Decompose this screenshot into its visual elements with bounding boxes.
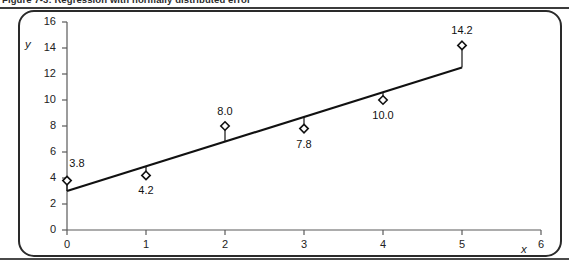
chart-frame [18, 10, 562, 257]
point-value-label: 3.8 [60, 157, 94, 169]
point-value-label: 7.8 [287, 138, 321, 150]
figure-caption: Figure 7-3: Regression with normally dis… [2, 0, 251, 5]
x-tick-label: 4 [372, 238, 394, 250]
y-tick-label: 4 [34, 171, 56, 183]
y-tick-label: 0 [34, 223, 56, 235]
y-tick-label: 12 [34, 67, 56, 79]
x-axis-title: x [521, 243, 527, 255]
y-axis-title: y [25, 38, 31, 50]
y-tick-label: 10 [34, 93, 56, 105]
point-value-label: 8.0 [208, 105, 242, 117]
point-value-label: 10.0 [366, 109, 400, 121]
x-tick-label: 2 [214, 238, 236, 250]
y-tick-label: 14 [34, 41, 56, 53]
x-tick-label: 5 [451, 238, 473, 250]
x-tick-label: 3 [293, 238, 315, 250]
page-bottom-divider [0, 258, 569, 260]
point-value-label: 14.2 [445, 24, 479, 36]
y-tick-label: 2 [34, 197, 56, 209]
x-tick-label: 0 [56, 238, 78, 250]
point-value-label: 4.2 [129, 184, 163, 196]
y-tick-label: 16 [34, 15, 56, 27]
caption-divider [0, 7, 569, 9]
y-tick-label: 6 [34, 145, 56, 157]
y-tick-label: 8 [34, 119, 56, 131]
x-tick-label: 1 [135, 238, 157, 250]
x-tick-label: 6 [530, 238, 552, 250]
